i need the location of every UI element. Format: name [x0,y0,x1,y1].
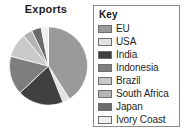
legend-item-label: Ivory Coast [116,114,165,125]
legend-swatch-icon [98,90,112,98]
legend-item-label: Japan [116,101,143,112]
legend-panel: Key EUUSAIndiaIndonesiaBrazilSouth Afric… [93,5,180,127]
legend-item-label: South Africa [116,88,169,99]
legend-swatch-icon [98,77,112,85]
legend-item: USA [98,35,179,48]
chart-title: Exports [0,2,92,16]
legend-swatch-icon [98,103,112,111]
legend-list: EUUSAIndiaIndonesiaBrazilSouth AfricaJap… [98,22,179,126]
legend-item-label: USA [116,36,136,47]
pie-svg [9,26,88,106]
legend-swatch-icon [98,25,112,33]
legend-swatch-icon [98,116,112,124]
legend-item: India [98,48,179,61]
legend-swatch-icon [98,38,112,46]
legend-item-label: Indonesia [116,62,158,73]
legend-item-label: EU [116,23,130,34]
legend-item: Brazil [98,74,179,87]
legend-item: Japan [98,100,179,113]
legend-item-label: Brazil [116,75,140,86]
legend-item: Indonesia [98,61,179,74]
pie-chart-figure: Exports Key EUUSAIndiaIndonesiaBrazilSou… [0,0,184,135]
legend-item: EU [98,22,179,35]
legend-item: South Africa [98,87,179,100]
legend-swatch-icon [98,64,112,72]
legend-swatch-icon [98,51,112,59]
legend-item-label: India [116,49,137,60]
pie-graphic [9,26,88,106]
legend-title: Key [99,9,179,21]
chart-area: Exports [0,0,92,135]
legend-item: Ivory Coast [98,113,179,126]
